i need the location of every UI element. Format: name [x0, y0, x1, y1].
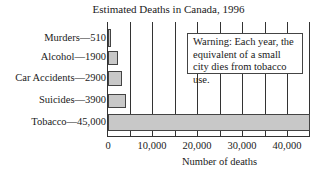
bar-murders: [108, 29, 111, 47]
chart-title: Estimated Deaths in Canada, 1996: [0, 3, 322, 15]
warning-line: equivalent of a small: [193, 49, 297, 62]
category-label-alcohol: Alcohol—1900: [41, 51, 106, 62]
x-tick: 30,000: [228, 140, 257, 151]
bar-car-accidents: [108, 71, 122, 86]
x-tick: 10,000: [138, 140, 167, 151]
bar-alcohol: [108, 51, 118, 65]
bar-suicides: [108, 94, 126, 108]
warning-line: Warning: Each year, the: [193, 36, 297, 49]
x-tick: 0: [105, 140, 110, 151]
category-label-tobacco: Tobacco—45,000: [31, 116, 106, 127]
warning-annotation: Warning: Each year, the equivalent of a …: [187, 33, 303, 74]
x-tick: 40,000: [273, 140, 302, 151]
category-label-suicides: Suicides—3900: [39, 94, 106, 105]
category-label-murders: Murders—510: [44, 32, 106, 43]
bar-tobacco: [108, 114, 310, 131]
warning-line: city dies from tobacco use.: [193, 61, 297, 86]
category-label-car-accidents: Car Accidents—2900: [15, 72, 106, 83]
x-axis-label: Number of deaths: [152, 156, 287, 167]
x-tick: 20,000: [183, 140, 212, 151]
